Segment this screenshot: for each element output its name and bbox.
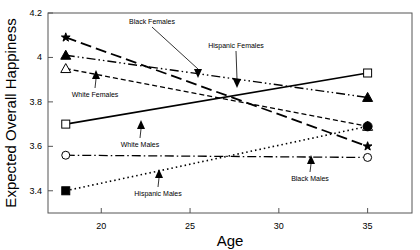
marker-white-males-start <box>62 120 70 128</box>
x-tick-label: 35 <box>363 221 373 231</box>
annotation-arrow-hispanic-males <box>155 169 163 178</box>
y-tick-label: 3.4 <box>29 186 42 196</box>
marker-black-females-start <box>61 33 70 41</box>
annotation-stem-hispanic-males <box>158 178 159 187</box>
y-tick-label: 4 <box>37 52 42 62</box>
y-tick-label: 4.2 <box>29 8 42 18</box>
marker-black-females-end <box>363 142 372 150</box>
series-line-black-males <box>66 155 368 157</box>
y-tick-label: 3.8 <box>29 97 42 107</box>
marker-white-males-end <box>364 69 372 77</box>
annotation-label-hispanic-females: Hispanic Females <box>208 42 264 50</box>
annotation-stem-white-females <box>95 79 96 88</box>
marker-black-males-start <box>62 151 70 159</box>
y-axis-title: Expected Overall Happiness <box>2 18 19 207</box>
annotation-arrow-hispanic-females <box>233 79 241 88</box>
marker-black-males-end <box>364 153 372 161</box>
annotation-arrow-white-males <box>137 120 145 129</box>
x-tick-label: 30 <box>274 221 284 231</box>
x-tick-label: 20 <box>96 221 106 231</box>
annotation-arrow-black-males <box>307 155 315 164</box>
annotation-stem-white-males <box>140 129 141 138</box>
y-tick-label: 3.6 <box>29 141 42 151</box>
marker-hispanic-males-end <box>363 122 372 131</box>
series-line-white-males <box>66 73 368 124</box>
happiness-by-age-line-chart: 202530353.43.63.844.2AgeExpected Overall… <box>0 0 420 250</box>
x-axis-title: Age <box>217 232 244 249</box>
annotation-label-hispanic-males: Hispanic Males <box>134 190 182 198</box>
annotation-label-black-males: Black Males <box>291 175 329 182</box>
annotation-stem-black-females <box>152 27 198 69</box>
marker-hispanic-females-start <box>61 50 71 59</box>
marker-hispanic-males-start <box>62 187 70 195</box>
annotation-stem-hispanic-females <box>236 51 237 79</box>
marker-white-females-start <box>61 64 71 73</box>
x-tick-label: 25 <box>185 221 195 231</box>
annotation-label-white-females: White Females <box>72 91 119 98</box>
annotation-stem-black-males <box>310 164 311 172</box>
annotation-label-black-females: Black Females <box>129 18 175 25</box>
chart-figure: 202530353.43.63.844.2AgeExpected Overall… <box>0 0 420 250</box>
annotation-label-white-males: White Males <box>121 141 160 148</box>
